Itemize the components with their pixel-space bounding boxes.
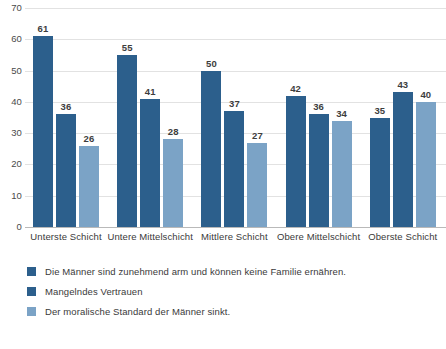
x-axis-category-label: Oberste Schicht: [343, 231, 446, 242]
bar-fill: [140, 99, 160, 227]
legend-swatch-icon: [27, 267, 36, 276]
bar[interactable]: 42: [286, 96, 306, 227]
legend-label: Mangelndes Vertrauen: [45, 286, 143, 297]
bar[interactable]: 40: [416, 102, 436, 227]
bar[interactable]: 35: [370, 118, 390, 228]
bar-value-label: 27: [252, 130, 263, 141]
legend-item[interactable]: Der moralische Standard der Männer sinkt…: [27, 303, 427, 320]
bar-value-label: 40: [420, 89, 431, 100]
y-axis-tick-label: 30: [0, 127, 22, 138]
legend-item[interactable]: Die Männer sind zunehmend arm und können…: [27, 263, 427, 280]
bar-fill: [247, 143, 267, 227]
y-axis: 010203040506070: [0, 8, 22, 227]
bar-fill: [117, 55, 137, 227]
bar-value-label: 61: [38, 23, 49, 34]
legend-swatch-icon: [27, 307, 36, 316]
bar[interactable]: 55: [117, 55, 137, 227]
bar-group: 613626: [33, 8, 99, 227]
y-axis-tick-label: 40: [0, 96, 22, 107]
axis-baseline: [25, 227, 446, 228]
y-axis-tick-label: 70: [0, 2, 22, 13]
bar-value-label: 35: [374, 105, 385, 116]
bar-fill: [416, 102, 436, 227]
chart-legend: Die Männer sind zunehmend arm und können…: [27, 263, 427, 323]
legend-item[interactable]: Mangelndes Vertrauen: [27, 283, 427, 300]
bar[interactable]: 27: [247, 143, 267, 227]
bar[interactable]: 28: [163, 139, 183, 227]
y-axis-tick-label: 10: [0, 190, 22, 201]
legend-swatch-icon: [27, 287, 36, 296]
bar-fill: [56, 114, 76, 227]
bar-fill: [286, 96, 306, 227]
bar-value-label: 37: [229, 98, 240, 109]
bar-group: 503727: [201, 8, 267, 227]
legend-label: Der moralische Standard der Männer sinkt…: [45, 306, 230, 317]
plot-area: 613626554128503727423634354340: [25, 8, 446, 227]
bar-fill: [224, 111, 244, 227]
bar-value-label: 26: [84, 133, 95, 144]
bar-value-label: 50: [206, 58, 217, 69]
bar[interactable]: 26: [79, 146, 99, 227]
bar[interactable]: 41: [140, 99, 160, 227]
bar-value-label: 55: [122, 42, 133, 53]
bar-group: 554128: [117, 8, 183, 227]
bar-fill: [33, 36, 53, 227]
bar-fill: [393, 92, 413, 227]
bar-group: 423634: [286, 8, 352, 227]
bar[interactable]: 43: [393, 92, 413, 227]
bar-value-label: 42: [290, 83, 301, 94]
bar-value-label: 34: [336, 108, 347, 119]
y-axis-tick-label: 60: [0, 33, 22, 44]
bar[interactable]: 36: [56, 114, 76, 227]
bar-value-label: 43: [397, 79, 408, 90]
y-axis-tick-label: 20: [0, 158, 22, 169]
bar-value-label: 36: [61, 101, 72, 112]
bar[interactable]: 36: [309, 114, 329, 227]
bar-group: 354340: [370, 8, 436, 227]
bar-fill: [201, 71, 221, 227]
legend-label: Die Männer sind zunehmend arm und können…: [45, 266, 346, 277]
bar-fill: [332, 121, 352, 227]
bar-fill: [370, 118, 390, 228]
bar-fill: [309, 114, 329, 227]
bar[interactable]: 50: [201, 71, 221, 227]
bar[interactable]: 34: [332, 121, 352, 227]
bar-value-label: 41: [145, 86, 156, 97]
bar-fill: [163, 139, 183, 227]
bar-chart: 010203040506070 613626554128503727423634…: [0, 0, 446, 349]
bar[interactable]: 37: [224, 111, 244, 227]
bar-value-label: 36: [313, 101, 324, 112]
bar[interactable]: 61: [33, 36, 53, 227]
bar-value-label: 28: [168, 126, 179, 137]
bar-fill: [79, 146, 99, 227]
y-axis-tick-label: 50: [0, 65, 22, 76]
